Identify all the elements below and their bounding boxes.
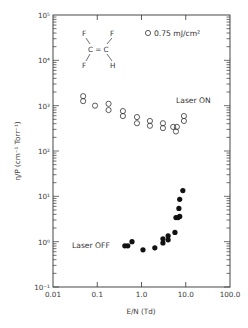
x-tick-label: 10.0 (178, 290, 194, 299)
y-tick-label: 10² (38, 147, 50, 156)
filled-circle-marker (160, 240, 165, 245)
legend-open-circle-icon (145, 30, 150, 35)
open-circle-marker (106, 101, 111, 106)
filled-circle-marker (166, 237, 171, 242)
open-circle-marker (134, 121, 139, 126)
atom-f-top-left: F (82, 29, 86, 38)
filled-circle-marker (152, 245, 157, 250)
scatter-chart: 0.010.11.010.0100.0 10⁻¹10⁰10¹10²10³10⁴1… (0, 0, 248, 328)
filled-circle-marker (177, 197, 182, 202)
bond-line (107, 54, 112, 61)
atom-f-bottom-left: F (82, 61, 86, 70)
bond-line (107, 38, 112, 44)
atom-h-bottom-right: H (110, 61, 115, 70)
filled-circle-marker (177, 214, 182, 219)
open-circle-marker (181, 118, 186, 123)
y-tick-label: 10⁴ (38, 56, 50, 65)
x-tick-label: 100.0 (220, 290, 241, 299)
filled-circle-marker (129, 239, 134, 244)
laser-on-label: Laser ON (176, 96, 211, 105)
open-circle-marker (147, 118, 152, 123)
x-tick-label: 1.0 (136, 290, 148, 299)
y-tick-label: 10⁰ (38, 238, 50, 247)
x-tick-label: 0.1 (92, 290, 103, 299)
filled-circle-marker (140, 247, 145, 252)
filled-circle-marker (125, 243, 130, 248)
filled-circle-marker (176, 206, 181, 211)
x-tick-labels: 0.010.11.010.0100.0 (45, 290, 241, 299)
open-circle-marker (147, 123, 152, 128)
bond-line (86, 54, 90, 61)
y-tick-labels: 10⁻¹10⁰10¹10²10³10⁴10⁵ (34, 11, 50, 292)
legend-label: 0.75 mJ/cm² (154, 29, 200, 38)
y-tick-label: 10⁵ (38, 11, 50, 20)
filled-circle-marker (180, 188, 185, 193)
open-circle-marker (160, 125, 165, 130)
y-tick-label: 10¹ (38, 192, 50, 201)
atom-f-top-right: F (110, 29, 114, 38)
molecule-structure: F F C = C F H (82, 29, 115, 70)
open-circle-marker (81, 99, 86, 104)
y-axis-title: η/P (cm⁻¹ Torr⁻¹) (13, 121, 22, 180)
laser-off-label: Laser OFF (72, 241, 110, 250)
y-tick-label: 10⁻¹ (34, 283, 50, 292)
open-circle-marker (120, 108, 125, 113)
carbon-double-bond: C = C (88, 45, 109, 54)
y-tick-label: 10³ (38, 102, 50, 111)
series-laser-on (81, 94, 187, 134)
open-circle-marker (120, 113, 125, 118)
legend: 0.75 mJ/cm² (145, 29, 200, 38)
series-laser-off (122, 188, 185, 252)
open-circle-marker (160, 121, 165, 126)
x-axis-title: E/N (Td) (126, 307, 155, 316)
open-circle-marker (134, 114, 139, 119)
open-circle-marker (92, 103, 97, 108)
open-circle-marker (106, 107, 111, 112)
filled-circle-marker (172, 230, 177, 235)
open-circle-marker (181, 113, 186, 118)
open-circle-marker (81, 94, 86, 99)
bond-line (86, 38, 90, 44)
